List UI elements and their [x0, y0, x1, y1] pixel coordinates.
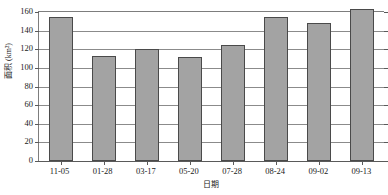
y-tick-mark-right	[384, 105, 388, 106]
x-axis-title: 日期	[38, 180, 383, 190]
bar	[264, 17, 288, 161]
bar	[307, 23, 331, 161]
x-tick-label: 03-17	[136, 166, 156, 177]
x-tick-label: 09-02	[308, 166, 328, 177]
y-tick-label: 140	[20, 25, 33, 34]
bar	[178, 57, 202, 161]
x-tick-label: 07-28	[222, 166, 242, 177]
x-tick-mark	[319, 161, 320, 165]
y-tick-mark-right	[384, 68, 388, 69]
y-tick-mark-right	[384, 31, 388, 32]
y-tick-label: 60	[25, 100, 34, 109]
bar	[92, 56, 116, 161]
bar	[350, 9, 374, 161]
bar	[221, 45, 245, 161]
x-tick-mark	[61, 161, 62, 165]
y-tick-label: 20	[25, 137, 34, 146]
bar-chart: 面积 (km²) 020406080100120140160 11-0501-2…	[0, 0, 388, 195]
x-axis-tick-labels: 11-0501-2803-1705-2007-2808-2409-0209-13	[38, 166, 383, 180]
y-tick-mark-right	[384, 142, 388, 143]
x-tick-label: 01-28	[93, 166, 113, 177]
y-tick-label: 120	[20, 44, 33, 53]
y-tick-mark-right	[384, 49, 388, 50]
y-tick-mark-right	[384, 12, 388, 13]
x-tick-mark	[276, 161, 277, 165]
y-tick-mark-right	[384, 87, 388, 88]
bar	[135, 49, 159, 161]
y-axis-tick-labels: 020406080100120140160	[0, 0, 36, 195]
y-tick-label: 40	[25, 118, 34, 127]
x-tick-label: 09-13	[352, 166, 372, 177]
x-tick-mark	[233, 161, 234, 165]
x-tick-mark	[147, 161, 148, 165]
x-tick-label: 05-20	[179, 166, 199, 177]
x-tick-mark	[362, 161, 363, 165]
y-tick-mark-right	[384, 161, 388, 162]
y-tick-label: 0	[29, 156, 33, 165]
x-tick-mark	[190, 161, 191, 165]
bars-layer	[39, 12, 384, 161]
x-tick-mark	[104, 161, 105, 165]
y-tick-label: 80	[25, 81, 34, 90]
bar	[49, 17, 73, 161]
y-tick-label: 100	[20, 62, 33, 71]
y-tick-mark-right	[384, 124, 388, 125]
x-tick-label: 11-05	[50, 166, 70, 177]
plot-area	[38, 11, 384, 162]
x-tick-label: 08-24	[265, 166, 285, 177]
y-tick-mark	[35, 161, 39, 162]
y-tick-label: 160	[20, 7, 33, 16]
